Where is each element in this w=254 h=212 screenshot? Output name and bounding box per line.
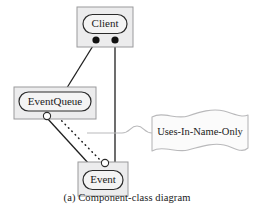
client-port-right-ball-icon[interactable] (111, 36, 118, 43)
figure-caption: (a) Component-class diagram (0, 192, 254, 203)
component-client[interactable]: Client (77, 7, 133, 47)
eventqueue-socket-icon[interactable] (43, 112, 50, 119)
note-connector-line (87, 126, 152, 133)
component-eventqueue[interactable]: EventQueue (14, 87, 96, 120)
eventqueue-label: EventQueue (28, 95, 82, 107)
connector-eventqueue-uses-event (55, 114, 104, 164)
event-label: Event (90, 173, 116, 185)
client-port-left-ball-icon[interactable] (92, 36, 99, 43)
event-socket-icon[interactable] (101, 159, 108, 166)
client-label: Client (92, 17, 119, 29)
note-uses-in-name-only[interactable]: Uses-In-Name-Only (152, 110, 248, 151)
figure-container: Client EventQueue Event Uses-In-Name-Onl… (0, 0, 254, 212)
note-label: Uses-In-Name-Only (157, 126, 243, 137)
component-event[interactable]: Event (78, 159, 128, 196)
component-class-diagram: Client EventQueue Event Uses-In-Name-Onl… (0, 0, 254, 212)
